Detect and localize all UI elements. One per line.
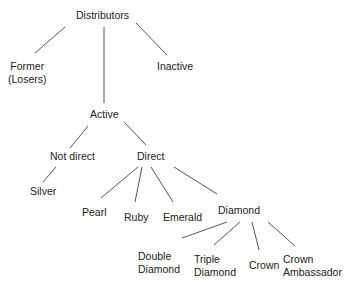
node-silver: Silver — [30, 185, 56, 198]
edge-direct-diamond — [174, 167, 217, 194]
tree-edges — [0, 0, 357, 288]
node-double-diamond-line1: Double — [138, 250, 180, 263]
node-triple-diamond-line2: Diamond — [194, 266, 236, 279]
node-crown-ambassador-line2: Ambassador — [283, 266, 342, 279]
node-crown-ambassador-line1: Crown — [283, 253, 342, 266]
node-crown: Crown — [249, 259, 279, 272]
edge-diamond-crown-ambassador — [268, 222, 295, 246]
node-crown-ambassador: Crown Ambassador — [283, 253, 342, 278]
node-ruby: Ruby — [124, 211, 149, 224]
edge-direct-emerald — [151, 167, 173, 202]
node-direct: Direct — [137, 150, 164, 163]
node-double-diamond: Double Diamond — [138, 250, 180, 275]
distributor-hierarchy-diagram: Distributors Former (Losers) Inactive Ac… — [0, 0, 357, 288]
node-triple-diamond-line1: Triple — [194, 253, 236, 266]
node-diamond: Diamond — [218, 204, 260, 217]
node-double-diamond-line2: Diamond — [138, 263, 180, 276]
node-former-line1: Former — [8, 60, 47, 73]
edge-not-direct-silver — [43, 167, 56, 182]
node-distributors: Distributors — [76, 9, 129, 22]
edge-active-direct — [124, 122, 146, 145]
edge-diamond-crown — [252, 222, 259, 250]
edge-distributors-inactive — [136, 23, 167, 55]
node-former-line2: (Losers) — [8, 73, 47, 86]
edge-diamond-double — [182, 222, 227, 238]
edge-direct-ruby — [135, 167, 142, 202]
node-emerald: Emerald — [163, 211, 202, 224]
node-inactive: Inactive — [157, 60, 193, 73]
edge-direct-pearl — [101, 167, 138, 198]
node-former-losers: Former (Losers) — [8, 60, 47, 85]
node-pearl: Pearl — [82, 206, 107, 219]
node-not-direct: Not direct — [50, 150, 95, 163]
edge-distributors-former — [35, 27, 65, 53]
edge-active-not-direct — [70, 126, 88, 148]
node-active: Active — [90, 108, 119, 121]
node-triple-diamond: Triple Diamond — [194, 253, 236, 278]
